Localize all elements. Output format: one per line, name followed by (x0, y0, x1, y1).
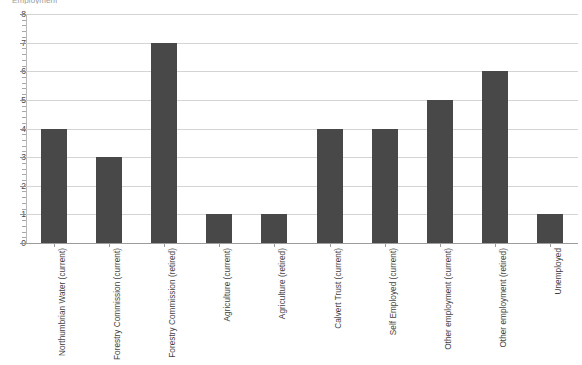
x-tick (54, 244, 55, 247)
bar (482, 71, 508, 243)
bar (151, 43, 177, 243)
x-tick-label: Unemployed (554, 248, 563, 362)
x-tick-label: Self Employed (current) (389, 248, 398, 362)
bar (206, 214, 232, 243)
bar (537, 214, 563, 243)
x-tick (385, 244, 386, 247)
bar (372, 129, 398, 244)
bar (41, 129, 67, 244)
x-tick-label: Agriculture (current) (223, 248, 232, 362)
bar (96, 157, 122, 243)
x-tick (440, 244, 441, 247)
x-tick (330, 244, 331, 247)
x-tick (274, 244, 275, 247)
bars-layer (26, 14, 578, 243)
x-tick-label: Northumbrian Water (current) (58, 248, 67, 362)
x-tick-label: Forestry Commission (current) (113, 248, 122, 362)
x-tick (495, 244, 496, 247)
x-tick-label: Calvert Trust (current) (334, 248, 343, 362)
x-tick-label: Agriculture (retired) (278, 248, 287, 362)
x-tick (164, 244, 165, 247)
bar (317, 129, 343, 244)
bar (261, 214, 287, 243)
bar (427, 100, 453, 243)
y-axis: 012345678 (0, 0, 26, 365)
x-tick (109, 244, 110, 247)
x-tick-label: Other employment (retired) (499, 248, 508, 362)
x-tick-label: Other employment (current) (444, 248, 453, 362)
bar-chart: Employment 012345678 Northumbrian Water … (0, 0, 582, 365)
x-tick (550, 244, 551, 247)
x-axis-labels: Northumbrian Water (current)Forestry Com… (26, 248, 578, 362)
x-tick (219, 244, 220, 247)
x-tick-label: Forestry Commission (retired) (168, 248, 177, 362)
